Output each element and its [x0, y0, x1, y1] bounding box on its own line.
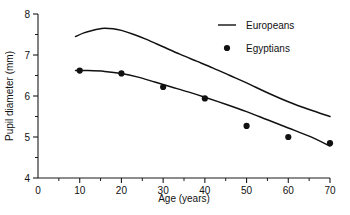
data-point-egyptians	[160, 84, 166, 90]
x-tick-label: 20	[116, 185, 128, 196]
legend-swatch-marker	[224, 45, 230, 51]
y-tick-label: 8	[24, 9, 30, 20]
y-tick-label: 4	[24, 173, 30, 184]
data-point-egyptians	[243, 123, 249, 129]
data-point-egyptians	[202, 95, 208, 101]
pupil-diameter-chart: 45678 010203040506070 Pupil diameter (mm…	[0, 0, 350, 215]
x-tick-label: 0	[35, 185, 41, 196]
data-point-egyptians	[327, 140, 333, 146]
x-tick-label: 70	[324, 185, 336, 196]
y-axis-title: Pupil diameter (mm)	[4, 51, 15, 141]
chart-legend: EuropeansEgyptians	[218, 20, 294, 54]
legend-label: Europeans	[246, 20, 294, 31]
y-axis: 45678	[24, 9, 38, 184]
x-tick-label: 50	[241, 185, 253, 196]
y-tick-label: 5	[24, 132, 30, 143]
y-tick-label: 7	[24, 50, 30, 61]
series-line-egyptians	[76, 71, 330, 147]
chart-canvas: 45678 010203040506070 Pupil diameter (mm…	[0, 0, 350, 215]
data-series-group	[76, 28, 334, 146]
data-point-egyptians	[285, 134, 291, 140]
x-tick-label: 10	[74, 185, 86, 196]
data-point-egyptians	[77, 67, 83, 73]
x-tick-label: 60	[283, 185, 295, 196]
data-point-egyptians	[118, 70, 124, 76]
y-tick-label: 6	[24, 91, 30, 102]
legend-label: Egyptians	[246, 43, 290, 54]
x-axis-title: Age (years)	[158, 193, 210, 204]
